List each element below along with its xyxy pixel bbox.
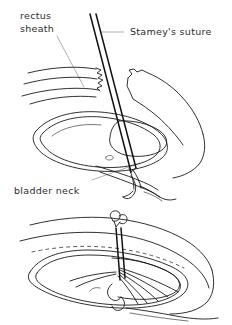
label-stameys-suture: Stamey's suture xyxy=(130,26,212,37)
label-rectus-sheath-line2: sheath xyxy=(20,23,54,34)
label-bladder-neck: bladder neck xyxy=(14,185,80,196)
stamey-suture-figure: rectus sheath Stamey's suture bladder ne… xyxy=(0,0,232,325)
canvas-background xyxy=(0,0,232,325)
illustration-canvas: rectus sheath Stamey's suture bladder ne… xyxy=(0,0,232,325)
label-rectus-sheath-line1: rectus xyxy=(20,10,51,21)
